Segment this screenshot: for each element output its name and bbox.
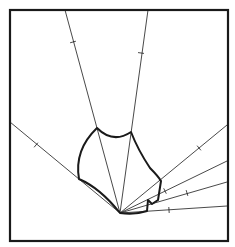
tick-mark-top-left xyxy=(70,41,76,43)
ray-top-right xyxy=(120,10,148,213)
tick-mark-top-right xyxy=(138,53,144,54)
ray-top-left xyxy=(65,10,120,213)
ray-left xyxy=(10,122,120,213)
tick-mark-right-3 xyxy=(186,190,188,196)
rays xyxy=(10,10,227,213)
frame-border xyxy=(10,10,228,241)
diagram-canvas xyxy=(0,0,235,247)
ray-right-4 xyxy=(120,206,227,213)
bold-shape-outline xyxy=(78,128,161,214)
